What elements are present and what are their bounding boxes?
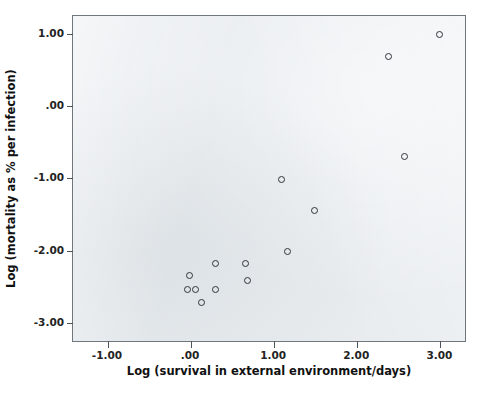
data-point: [401, 153, 408, 160]
x-tick-mark: [274, 341, 275, 348]
x-axis-tick-labels: -1.00.001.002.003.00: [72, 349, 466, 365]
data-point: [198, 299, 205, 306]
x-tick-label: -1.00: [92, 349, 122, 361]
x-tick-mark: [440, 341, 441, 348]
y-tick-label: .00: [45, 99, 64, 111]
data-point: [436, 31, 443, 38]
plot-area: [73, 16, 465, 341]
caption-sliver: [0, 386, 480, 394]
data-point: [385, 53, 392, 60]
y-tick-label: 1.00: [38, 27, 64, 39]
data-point: [311, 207, 318, 214]
data-point: [242, 260, 249, 267]
data-point: [212, 260, 219, 267]
y-tick-label: -2.00: [34, 244, 64, 256]
x-tick-label: 2.00: [343, 349, 369, 361]
data-point: [192, 286, 199, 293]
x-tick-label: 3.00: [426, 349, 452, 361]
y-axis-tick-labels: 1.00.00-1.00-2.00-3.00: [0, 15, 68, 342]
y-tick-mark: [67, 34, 73, 35]
data-point: [186, 272, 193, 279]
plot-panel: [72, 15, 466, 342]
scatter-figure: Log (mortality as % per infection) 1.00.…: [0, 0, 480, 394]
y-tick-mark: [67, 178, 73, 179]
x-tick-mark: [108, 341, 109, 348]
x-axis-title: Log (survival in external environment/da…: [72, 364, 466, 378]
data-point: [212, 286, 219, 293]
x-tick-label: .00: [181, 349, 200, 361]
y-tick-mark: [67, 251, 73, 252]
data-point: [284, 248, 291, 255]
x-tick-mark: [191, 341, 192, 348]
data-point: [278, 176, 285, 183]
y-tick-label: -3.00: [34, 316, 64, 328]
data-point: [244, 277, 251, 284]
y-tick-mark: [67, 106, 73, 107]
y-tick-label: -1.00: [34, 171, 64, 183]
x-tick-mark: [357, 341, 358, 348]
y-tick-mark: [67, 323, 73, 324]
data-point: [184, 286, 191, 293]
x-tick-label: 1.00: [260, 349, 286, 361]
